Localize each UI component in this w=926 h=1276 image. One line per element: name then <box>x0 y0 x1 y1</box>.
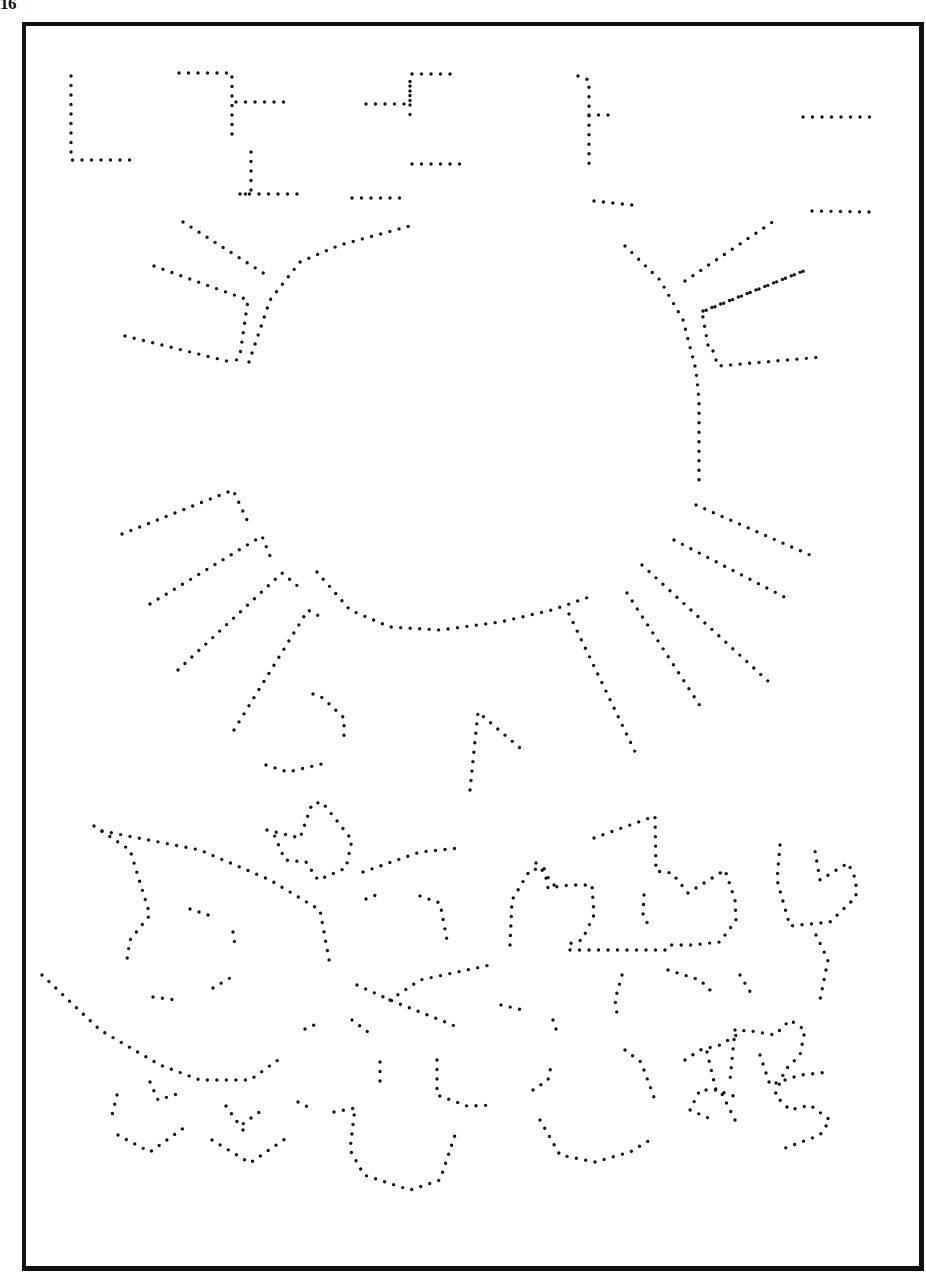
marks-right-dotted-path <box>501 1005 523 1010</box>
sun-ray-left-1-dotted-path <box>122 490 247 534</box>
marks-right-2-dotted-path <box>553 1020 558 1035</box>
sky-shape-5-dotted-path <box>366 74 459 104</box>
petals-1-dotted-path <box>150 1082 177 1100</box>
bowl-mid-dotted-path <box>212 1137 288 1163</box>
sun-ray-lower-right-1-dotted-path <box>627 593 704 712</box>
flower-bottom-right-dotted-path <box>615 975 622 1020</box>
mid-marks-dotted-path <box>352 1020 368 1032</box>
ground-curve-dotted-path <box>42 975 278 1080</box>
leaf-right-mid-dotted-path <box>740 975 752 995</box>
sun-ray-upper-left-3-dotted-path <box>125 336 235 363</box>
sun-ray-right-3-dotted-path <box>642 565 769 682</box>
stem-far-right-dotted-path <box>816 935 828 1000</box>
curve-left-3-dotted-path <box>213 975 235 988</box>
star-shape-5-dotted-path <box>690 1090 735 1120</box>
sun-ray-upper-left-2-dotted-path <box>154 266 248 362</box>
hook-shape-dotted-path <box>313 694 344 740</box>
leaf-mid-dotted-path <box>357 985 460 1028</box>
sun-ray-upper-right-2-dotted-path <box>702 270 806 345</box>
leaf-mid-stem-dotted-path <box>390 965 490 1000</box>
flower-top-center-dotted-path <box>267 802 352 880</box>
sun-ray-upper-right-3-dotted-path <box>713 351 822 366</box>
sun-ray-right-1-dotted-path <box>696 505 810 555</box>
bowl-left-dotted-path <box>118 1127 185 1152</box>
mid-curve-1-dotted-path <box>366 893 381 899</box>
peak-shape-dotted-path <box>470 712 520 790</box>
stem-bottom-right-dotted-path <box>625 1050 655 1100</box>
sun-ray-left-2-dotted-path <box>150 536 270 604</box>
sky-shape-1-dotted-path <box>71 76 136 160</box>
sun-ray-left-3-dotted-path <box>178 573 300 670</box>
sky-shape-12-dotted-path <box>594 201 641 206</box>
petals-2-dotted-path <box>112 1095 117 1115</box>
flower-bottom-right-2-dotted-path <box>668 970 715 995</box>
sun-ray-lower-right-2-dotted-path <box>569 614 638 758</box>
small-mark-2-dotted-path <box>305 1025 314 1029</box>
leaf-center-dotted-path <box>363 848 460 872</box>
tulip-center-2-dotted-path <box>536 863 558 890</box>
bowl-bottom-right-dotted-path <box>540 1120 655 1162</box>
small-mark-1-dotted-path <box>298 1102 308 1107</box>
sun-ray-left-4-dotted-path <box>234 610 323 730</box>
sky-shape-9-dotted-path <box>578 76 589 166</box>
stem-center-2-dotted-path <box>437 1060 495 1106</box>
bowl-center-dotted-path <box>334 1108 455 1190</box>
sky-shape-4-dotted-path <box>238 152 298 194</box>
tulip-right-1-dotted-path <box>594 816 736 945</box>
dot-to-dot-drawing <box>0 0 926 1276</box>
tulip-right-2-dotted-path <box>643 895 650 928</box>
star-shape-3-dotted-path <box>730 1030 735 1080</box>
tulip-far-right-dotted-path <box>777 845 856 926</box>
v-shape-dotted-path <box>226 1106 265 1126</box>
curve-left-1-dotted-path <box>190 909 214 917</box>
mid-curve-2-dotted-path <box>420 896 447 940</box>
sun-ray-right-2-dotted-path <box>674 540 792 601</box>
hook-shape-bottom-dotted-path <box>266 762 330 772</box>
leaf-left-top-dotted-path <box>102 831 330 965</box>
v-stem-dotted-path <box>243 1130 245 1135</box>
star-shape-dotted-path <box>685 1020 830 1150</box>
curve-left-4-dotted-path <box>153 997 176 1000</box>
sky-shape-2-dotted-path <box>179 73 232 138</box>
sun-outline-bottom-dotted-path <box>317 572 589 630</box>
sky-shape-13-dotted-path <box>812 211 869 212</box>
sun-outline-upper-left-dotted-path <box>249 224 417 362</box>
flower-left-stem-dotted-path <box>94 826 150 966</box>
sun-outline-right-dotted-path <box>625 246 699 480</box>
curve-left-2-dotted-path <box>233 932 235 945</box>
curve-bottom-mid-dotted-path <box>533 1062 552 1090</box>
sun-ray-upper-left-1-dotted-path <box>183 222 268 276</box>
star-shape-2-dotted-path <box>707 1052 740 1098</box>
sun-ray-upper-right-1-dotted-path <box>685 219 777 281</box>
tulip-center-dotted-path <box>510 868 594 945</box>
